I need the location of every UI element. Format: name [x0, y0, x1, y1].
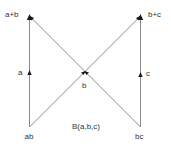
edge-label-a: a	[18, 68, 23, 77]
butterfly-diagram: a+b b+c a c b ab bc B(a,b,c)	[0, 0, 171, 147]
node-label-ab: ab	[25, 132, 34, 141]
arrowhead-mid-left-icon	[27, 70, 31, 75]
diagram-caption: B(a,b,c)	[72, 122, 100, 131]
node-label-b: b	[82, 81, 87, 90]
node-label-a-plus-b: a+b	[5, 10, 19, 19]
edge-label-c: c	[146, 69, 150, 78]
node-label-b-plus-c: b+c	[148, 10, 161, 19]
node-label-bc: bc	[135, 132, 143, 141]
arrowhead-mid-right-icon	[138, 72, 142, 77]
